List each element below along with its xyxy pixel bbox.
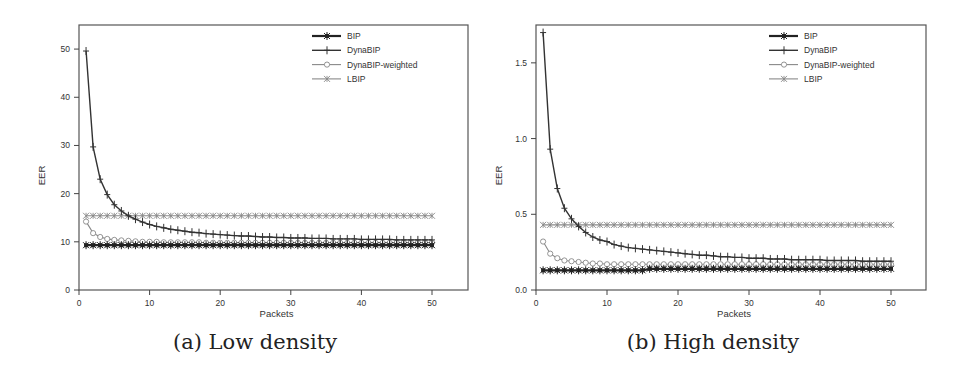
y-tick-label: 1.5 (515, 58, 527, 68)
x-tick-label: 0 (534, 298, 539, 308)
x-tick-label: 20 (673, 298, 683, 308)
y-tick-label: 0.0 (515, 285, 527, 295)
legend-label: BIP (804, 31, 818, 41)
chart-high-density: 01020304050Packets0.00.51.01.5EERBIPDyna… (0, 0, 962, 320)
x-tick-label: 30 (744, 298, 754, 308)
legend-label: DynaBIP-weighted (804, 60, 875, 70)
caption-low-density: (a) Low density (105, 330, 405, 354)
y-tick-label: 0.5 (515, 209, 527, 219)
y-tick-label: 1.0 (515, 134, 527, 144)
y-axis: 0.00.51.01.5EER (493, 58, 536, 295)
plot-area: 01020304050Packets0.00.51.01.5EERBIPDyna… (493, 25, 926, 319)
x-axis: 01020304050Packets (534, 290, 896, 319)
caption-high-density: (b) High density (563, 330, 863, 354)
y-axis-label: EER (493, 166, 504, 186)
x-tick-label: 10 (602, 298, 612, 308)
x-tick-label: 50 (886, 298, 896, 308)
legend-label: LBIP (804, 74, 823, 84)
legend-label: DynaBIP (804, 45, 838, 55)
x-axis-label: Packets (717, 308, 751, 319)
x-tick-label: 40 (815, 298, 825, 308)
